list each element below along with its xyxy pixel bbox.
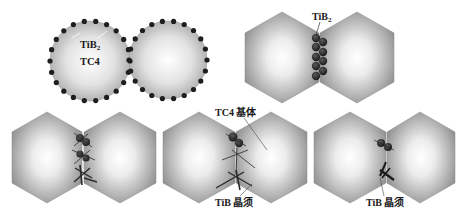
label-tib-whisker: TiB 晶须 bbox=[366, 196, 404, 208]
tc4-grain-right bbox=[387, 112, 455, 203]
label-tc4-matrix: TC4 基体 bbox=[215, 106, 257, 118]
tc4-grain-right bbox=[84, 112, 156, 203]
panel-d-whisker-growth: TC4 基体 TiB 晶须 bbox=[163, 106, 307, 208]
panel-c-whisker-nucleation bbox=[12, 112, 156, 203]
tib-formation-diagram: TiB2 TC4 TiB2 bbox=[0, 0, 466, 218]
panel-a-powder-spheres: TiB2 TC4 bbox=[47, 19, 209, 103]
label-tib2: TiB2 bbox=[312, 11, 332, 24]
tc4-grain-left bbox=[12, 112, 82, 203]
tc4-grain-left bbox=[245, 12, 319, 103]
tc4-grain-left bbox=[163, 112, 235, 203]
label-tib-whisker: TiB 晶须 bbox=[215, 196, 253, 208]
label-tc4: TC4 bbox=[80, 56, 101, 67]
panel-e-mature-whisker: TiB 晶须 bbox=[314, 112, 455, 208]
tc4-grain-right bbox=[320, 12, 394, 103]
tc4-sphere-right bbox=[129, 21, 207, 99]
panel-b-tib2-at-boundary: TiB2 bbox=[245, 11, 394, 103]
tc4-grain-left bbox=[314, 112, 386, 203]
